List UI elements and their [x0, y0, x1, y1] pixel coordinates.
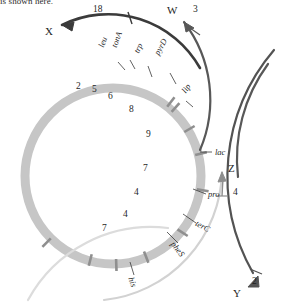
- interval-number-9: 9: [146, 130, 151, 140]
- arc-value-w: 3: [193, 5, 198, 15]
- interval-number-7b: 7: [102, 224, 107, 234]
- circular-genetic-map: [0, 0, 293, 306]
- chromosome-circle: [25, 88, 201, 264]
- interval-number-4a: 4: [134, 188, 139, 198]
- interval-number-6: 6: [108, 92, 113, 102]
- arc-value-y: 2: [252, 277, 257, 287]
- leader-pyrD: [170, 73, 176, 84]
- leader-tonA: [130, 60, 135, 69]
- leader-trp: [148, 66, 152, 77]
- interval-number-4b: 4: [123, 210, 128, 220]
- interval-number-2: 2: [76, 82, 81, 92]
- arc-label-w: W: [167, 5, 177, 16]
- arc-label-y: Y: [233, 288, 241, 299]
- interval-number-8: 8: [129, 105, 134, 115]
- arc-value-z: 4: [233, 188, 238, 198]
- arc-value-x: 18: [93, 5, 103, 15]
- transfer-arc-x: [62, 12, 200, 68]
- arc-z-stem: [222, 178, 223, 196]
- interval-number-7a: 7: [143, 164, 148, 174]
- arc-w-arrowhead: [184, 22, 194, 32]
- leader-leu: [118, 62, 125, 70]
- arc-z-arrowhead: [218, 172, 226, 182]
- leader-lip: [186, 101, 193, 107]
- gene-label-lac: lac: [215, 148, 225, 157]
- interval-number-5: 5: [92, 85, 97, 95]
- arc-label-z: Z: [228, 163, 235, 174]
- gene-label-pro: pro: [208, 190, 220, 199]
- arc-label-x: X: [45, 26, 53, 37]
